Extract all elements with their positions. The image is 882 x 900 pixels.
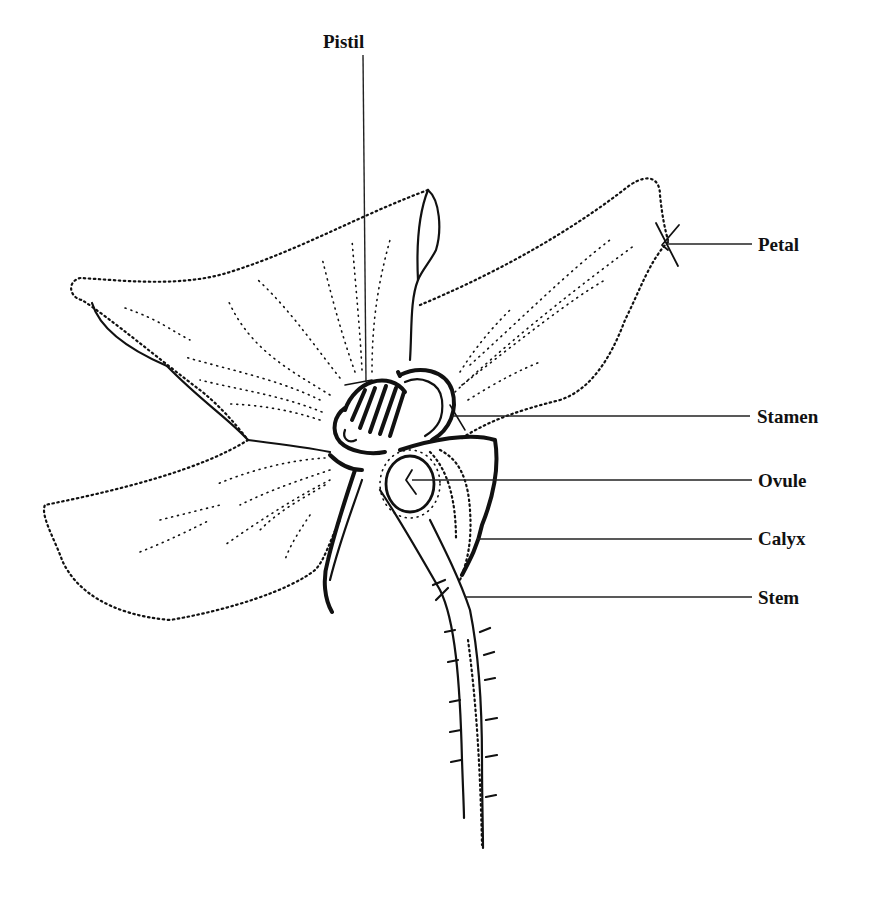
- petal-lower-left: [44, 440, 340, 620]
- leader-pistil: [363, 55, 366, 382]
- ovule: [380, 450, 440, 518]
- label-petal: Petal: [758, 235, 799, 254]
- label-calyx: Calyx: [758, 529, 806, 548]
- flower-diagram: [0, 0, 882, 900]
- stamens: [330, 370, 465, 470]
- label-stem: Stem: [758, 588, 799, 607]
- petal-upper-left: [71, 190, 439, 440]
- stem: [380, 490, 497, 848]
- label-pistil: Pistil: [323, 32, 364, 51]
- leader-lines: [363, 55, 752, 597]
- label-stamen: Stamen: [757, 407, 818, 426]
- label-ovule: Ovule: [758, 471, 807, 490]
- petal-upper-right: [420, 178, 668, 438]
